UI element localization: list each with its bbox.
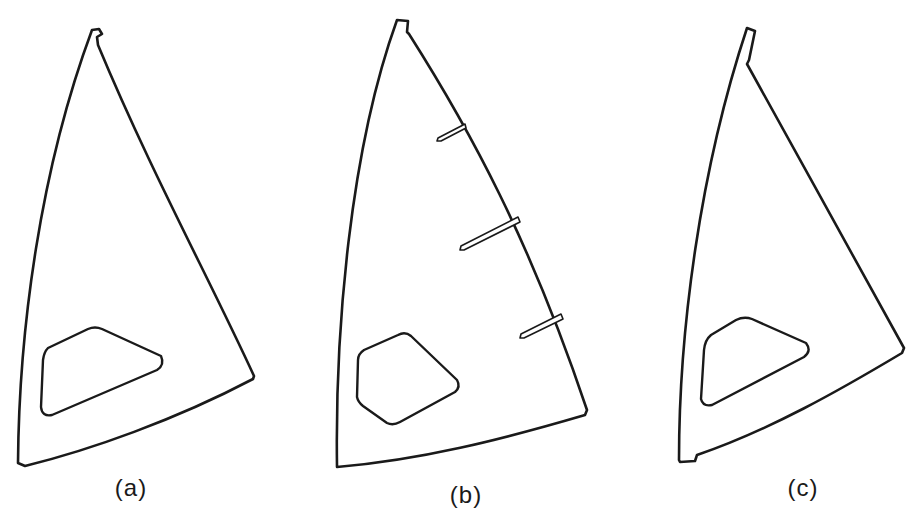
batten-b-1 (437, 124, 466, 141)
panel-label-c: (c) (788, 474, 819, 502)
sail-outline-c (679, 28, 904, 462)
batten-b-2 (460, 217, 520, 250)
sail-window-c (701, 318, 809, 406)
sail-diagram-canvas (0, 0, 923, 518)
sail-window-a (41, 328, 162, 416)
sail-panel-b (337, 20, 587, 467)
panel-label-b: (b) (450, 481, 482, 509)
sail-outline-a (18, 29, 254, 466)
sail-window-b (357, 333, 459, 424)
sail-panel-c (679, 28, 904, 462)
panel-label-a: (a) (115, 474, 147, 502)
sail-outline-b (337, 20, 587, 467)
sail-panel-a (18, 29, 254, 466)
